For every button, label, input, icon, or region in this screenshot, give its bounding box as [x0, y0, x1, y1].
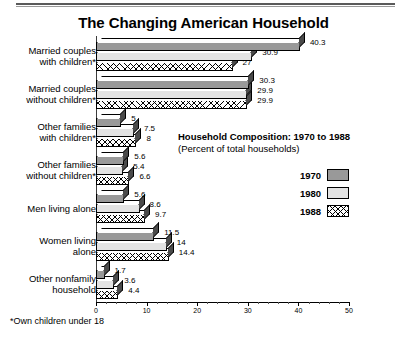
x-tick-minor	[258, 302, 259, 304]
x-tick-minor	[177, 302, 178, 304]
chart-legend: 1970 1980 1988	[300, 166, 349, 220]
category-label: Other families with children*	[0, 121, 96, 143]
value-label: 11.5	[164, 228, 179, 237]
chart-caption: Household Composition: 1970 to 1988 (Per…	[178, 131, 403, 155]
x-tick-minor	[116, 302, 117, 304]
value-label: 6.6	[139, 172, 150, 181]
bar-end-cap	[104, 260, 110, 276]
value-label: 40.3	[310, 38, 326, 47]
caption-main: Household Composition: 1970 to 1988	[178, 131, 403, 143]
x-tick-label: 0	[94, 307, 98, 314]
bar-1988-1	[96, 100, 247, 109]
bar-top-face	[97, 76, 253, 81]
value-label: 14	[177, 238, 186, 247]
bar-1988-2	[96, 138, 136, 147]
x-tick-minor	[268, 302, 269, 304]
value-label: 30.3	[259, 76, 275, 85]
x-tick-minor	[228, 302, 229, 304]
x-tick-minor	[207, 302, 208, 304]
x-tick-label: 30	[244, 307, 252, 314]
x-tick-major	[197, 302, 198, 306]
bar-end-cap	[153, 222, 159, 238]
value-label: 27	[243, 58, 252, 67]
legend-item-1970[interactable]: 1970	[300, 166, 349, 184]
legend-swatch-1988	[327, 205, 349, 217]
bar-1988-5	[96, 252, 169, 261]
bar-1970-5	[96, 232, 154, 241]
value-label: 29.9	[257, 96, 273, 105]
x-tick-minor	[126, 302, 127, 304]
bar-end-cap	[120, 108, 126, 124]
x-tick-minor	[309, 302, 310, 304]
category-label: Men living alone	[0, 203, 96, 214]
bar-1988-6	[96, 290, 118, 299]
value-label: 5.6	[134, 152, 145, 161]
bar-end-cap	[117, 280, 123, 296]
bar-1970-4	[96, 194, 124, 203]
chart-page: The Changing American Household 01020304…	[0, 0, 407, 345]
x-tick-major	[298, 302, 299, 306]
legend-label-1988: 1988	[300, 206, 321, 217]
value-label: 14.4	[179, 248, 195, 257]
bar-1980-2	[96, 128, 134, 137]
value-label: 5.4	[133, 162, 144, 171]
bar-end-cap	[123, 184, 129, 200]
value-label: 3.6	[124, 276, 135, 285]
value-label: 5.6	[134, 190, 145, 199]
bar-1970-2	[96, 118, 121, 127]
legend-label-1970: 1970	[300, 170, 321, 181]
x-tick-major	[147, 302, 148, 306]
x-tick-minor	[288, 302, 289, 304]
value-label: 4.4	[128, 286, 139, 295]
bar-1988-3	[96, 176, 129, 185]
bar-1970-6	[96, 270, 105, 279]
x-tick-minor	[238, 302, 239, 304]
bar-1980-4	[96, 204, 140, 213]
bar-top-face	[97, 228, 158, 233]
bar-1988-4	[96, 214, 145, 223]
x-tick-minor	[278, 302, 279, 304]
caption-sub: (Percent of total households)	[178, 143, 403, 155]
x-axis-line	[96, 302, 349, 303]
category-label: Married couples without children*	[0, 83, 96, 105]
x-tick-minor	[319, 302, 320, 304]
x-tick-minor	[187, 302, 188, 304]
value-label: 7.5	[144, 124, 155, 133]
x-tick-minor	[339, 302, 340, 304]
x-tick-major	[349, 302, 350, 306]
x-tick-minor	[167, 302, 168, 304]
legend-item-1988[interactable]: 1988	[300, 202, 349, 220]
chart-footnote: *Own children under 18	[10, 316, 104, 326]
x-tick-label: 50	[345, 307, 353, 314]
x-tick-label: 10	[143, 307, 151, 314]
x-tick-major	[248, 302, 249, 306]
bar-1980-3	[96, 166, 123, 175]
bar-1980-0	[96, 52, 252, 61]
x-tick-label: 40	[294, 307, 302, 314]
bar-1988-0	[96, 62, 233, 71]
value-label: 1.7	[115, 266, 126, 275]
x-tick-minor	[157, 302, 158, 304]
value-label: 8	[146, 134, 150, 143]
x-tick-minor	[106, 302, 107, 304]
bar-1980-6	[96, 280, 114, 289]
value-label: 29.9	[257, 86, 273, 95]
legend-swatch-1970	[327, 169, 349, 181]
category-label: Women living alone	[0, 235, 96, 257]
category-label: Other nonfamily household	[0, 273, 96, 295]
bar-1980-5	[96, 242, 167, 251]
category-label: Married couples with children*	[0, 45, 96, 67]
x-tick-major	[96, 302, 97, 306]
legend-label-1980: 1980	[300, 188, 321, 199]
category-label: Other families without children*	[0, 159, 96, 181]
bar-1970-1	[96, 80, 249, 89]
bar-top-face	[97, 38, 304, 43]
x-tick-label: 20	[193, 307, 201, 314]
value-label: 8.6	[150, 200, 161, 209]
value-label: 5	[131, 114, 135, 123]
value-label: 30.9	[262, 48, 278, 57]
x-tick-minor	[136, 302, 137, 304]
legend-item-1980[interactable]: 1980	[300, 184, 349, 202]
bar-1980-1	[96, 90, 247, 99]
value-label: 9.7	[155, 210, 166, 219]
